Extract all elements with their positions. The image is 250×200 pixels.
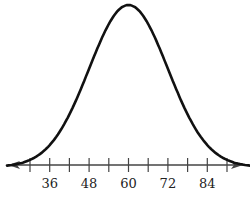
x-tick-label: 72 — [160, 176, 177, 191]
normal-curve-chart — [0, 0, 250, 200]
x-tick-label: 84 — [199, 176, 216, 191]
normal-curve — [7, 5, 250, 166]
x-tick-label: 48 — [81, 176, 98, 191]
x-tick-label: 60 — [120, 176, 137, 191]
x-tick-label: 36 — [41, 176, 58, 191]
